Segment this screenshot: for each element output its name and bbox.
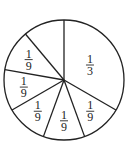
slice-label: 19	[86, 98, 94, 124]
fraction-denominator: 3	[87, 64, 93, 78]
slice-label: 19	[60, 108, 68, 134]
fraction-denominator: 9	[35, 110, 41, 124]
fraction-denominator: 9	[26, 59, 32, 73]
fraction-denominator: 9	[61, 120, 67, 134]
pie-chart: 131919191919	[0, 0, 130, 148]
slice-label: 13	[86, 52, 94, 78]
slice-label: 19	[25, 47, 33, 73]
slice-label: 19	[34, 98, 42, 124]
fraction-denominator: 9	[87, 110, 93, 124]
fraction-denominator: 9	[21, 86, 27, 100]
slice-label: 19	[20, 74, 28, 100]
